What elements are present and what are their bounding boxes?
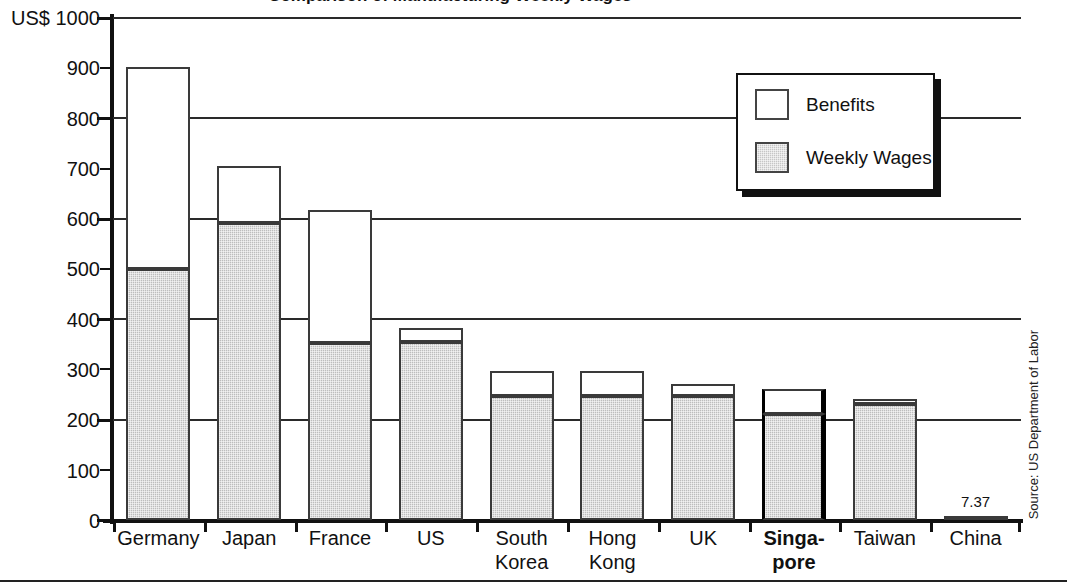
y-tick-400 (97, 318, 113, 321)
bar-segment-benefits (762, 389, 826, 413)
y-tick-300 (100, 368, 113, 370)
y-tick-label-100: 100 (67, 461, 100, 481)
bar-value-label: 7.37 (961, 493, 990, 510)
y-tick-label-400: 400 (67, 310, 100, 330)
bar-segment-wages (762, 414, 826, 520)
bar-segment-wages (217, 223, 281, 520)
bar-segment-benefits (126, 67, 190, 269)
bar-segment-benefits (671, 384, 735, 395)
y-tick-800 (97, 117, 113, 120)
bar-segment-benefits (308, 210, 372, 343)
x-axis-label-germany: Germany (113, 526, 204, 550)
y-tick-label-700: 700 (67, 159, 100, 179)
legend-item-benefits[interactable]: Benefits (755, 89, 875, 120)
y-axis-labels: US$ 1000 900 800 700 600 500 400 300 200… (0, 0, 100, 582)
y-tick-label-200: 200 (67, 410, 100, 430)
legend-label-benefits: Benefits (806, 94, 875, 116)
y-tick-label-1000: US$ 1000 (11, 8, 100, 28)
y-tick-label-500: 500 (67, 259, 100, 279)
source-note: Source: US Department of Labor (1026, 330, 1041, 519)
bar-france[interactable] (308, 18, 372, 520)
bar-segment-wages (126, 269, 190, 520)
y-tick-label-900: 900 (67, 58, 100, 78)
bar-segment-wages (944, 516, 1008, 520)
y-tick-label-800: 800 (67, 109, 100, 129)
x-axis-label-france: France (295, 526, 386, 550)
x-axis-label-singa-pore: Singa- pore (749, 526, 840, 574)
y-tick-1000 (97, 17, 113, 20)
y-tick-700 (100, 168, 113, 170)
y-tick-600 (97, 218, 113, 221)
y-tick-label-600: 600 (67, 209, 100, 229)
bar-south-korea[interactable] (490, 18, 554, 520)
x-axis-label-japan: Japan (204, 526, 295, 550)
chart-legend: Benefits Weekly Wages (736, 73, 935, 191)
y-tick-500 (100, 268, 113, 270)
bar-segment-wages (671, 396, 735, 520)
bar-segment-benefits (217, 166, 281, 223)
chart-title-cutoff: Comparison of Manufacturing Weekly Wages (150, 0, 750, 4)
bar-japan[interactable] (217, 18, 281, 520)
x-axis-label-china: China (930, 526, 1021, 550)
legend-item-weekly-wages[interactable]: Weekly Wages (755, 142, 932, 173)
y-tick-0 (97, 519, 113, 522)
legend-label-weekly-wages: Weekly Wages (806, 147, 932, 169)
y-tick-200 (97, 419, 113, 422)
bar-china[interactable]: 7.37 (944, 18, 1008, 520)
x-axis-label-south-korea: South Korea (476, 526, 567, 574)
y-tick-900 (100, 67, 113, 69)
bar-segment-benefits (490, 371, 554, 396)
bar-segment-benefits (580, 371, 644, 395)
x-axis-label-us: US (385, 526, 476, 550)
bar-segment-wages (853, 404, 917, 520)
legend-box: Benefits Weekly Wages (736, 73, 935, 191)
y-tick-100 (100, 469, 113, 471)
bar-segment-wages (308, 343, 372, 520)
bar-hong-kong[interactable] (580, 18, 644, 520)
bar-us[interactable] (399, 18, 463, 520)
bar-uk[interactable] (671, 18, 735, 520)
chart-figure: Comparison of Manufacturing Weekly Wages… (0, 0, 1067, 582)
bar-segment-benefits (853, 399, 917, 404)
bar-segment-wages (399, 342, 463, 520)
x-axis-label-uk: UK (658, 526, 749, 550)
x-axis-labels: GermanyJapanFranceUSSouth KoreaHong Kong… (113, 526, 1021, 582)
bar-segment-wages (490, 396, 554, 520)
y-tick-label-300: 300 (67, 360, 100, 380)
legend-swatch-wages-icon (755, 142, 789, 173)
x-axis-label-hong-kong: Hong Kong (567, 526, 658, 574)
legend-swatch-benefits-icon (755, 89, 789, 120)
bar-segment-wages (580, 396, 644, 520)
x-axis-label-taiwan: Taiwan (839, 526, 930, 550)
bar-segment-benefits (399, 328, 463, 342)
bar-germany[interactable] (126, 18, 190, 520)
